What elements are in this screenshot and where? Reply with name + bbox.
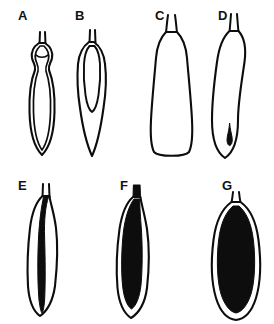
panel-label-f: F	[120, 178, 128, 193]
specimen-plate-svg: A B C	[0, 0, 274, 324]
figure-plate: A B C	[0, 0, 274, 324]
specimen-g-inner-body	[217, 206, 254, 313]
panel-label-b: B	[75, 8, 84, 23]
specimen-b-inner-sac	[84, 46, 100, 112]
panel-label-a: A	[18, 8, 28, 23]
specimen-b-stalk-right	[95, 30, 96, 43]
panel-label-g: G	[222, 178, 232, 193]
specimen-a	[29, 32, 54, 155]
panel-label-c: C	[155, 8, 165, 23]
panel-label-d: D	[218, 8, 227, 23]
specimen-c-outer-outline	[151, 32, 192, 156]
panel-label-e: E	[18, 178, 27, 193]
